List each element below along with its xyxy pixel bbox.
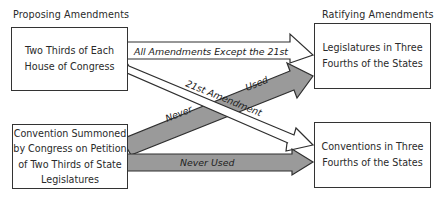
- node-convention-line-3: of Two Thirds of State: [18, 157, 122, 173]
- node-convention-summoned: Convention Summoned by Congress on Petit…: [12, 124, 128, 189]
- node-congress-line-1: Two Thirds of Each: [25, 43, 114, 59]
- node-conventions: Conventions in Three Fourths of the Stat…: [314, 122, 431, 188]
- node-legislatures-line-1: Legislatures in Three: [322, 40, 422, 56]
- node-convention-line-4: Legislatures: [41, 172, 99, 188]
- label-never-used: Never Used: [180, 157, 234, 168]
- node-conventions-line-1: Conventions in Three: [321, 139, 423, 155]
- node-convention-line-2: by Congress on Petition: [13, 141, 126, 157]
- node-legislatures-line-2: Fourths of the States: [322, 56, 422, 72]
- node-congress-line-2: House of Congress: [25, 59, 115, 75]
- node-congress: Two Thirds of Each House of Congress: [11, 27, 128, 91]
- node-convention-line-1: Convention Summoned: [14, 126, 127, 142]
- label-all-except-21st: All Amendments Except the 21st: [133, 46, 288, 57]
- node-legislatures: Legislatures in Three Fourths of the Sta…: [314, 23, 431, 89]
- node-conventions-line-2: Fourths of the States: [322, 155, 422, 171]
